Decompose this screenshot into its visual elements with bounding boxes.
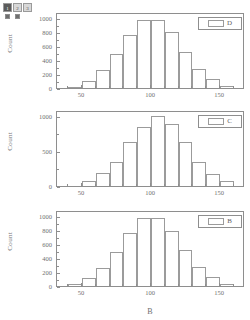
y-axis-minor-tick	[57, 169, 59, 170]
x-axis-minor-tick	[95, 184, 96, 186]
y-axis-minor-tick	[57, 134, 59, 135]
x-axis-minor-tick	[205, 184, 206, 186]
x-axis-minor-tick	[136, 184, 137, 186]
histogram-bar	[82, 278, 96, 286]
x-axis-minor-tick	[178, 284, 179, 286]
y-axis-label-d: Count	[6, 34, 14, 53]
x-axis-minor-tick	[205, 86, 206, 88]
histogram-bar	[137, 20, 151, 88]
histogram-bar	[165, 32, 179, 88]
x-axis-tick	[219, 183, 220, 186]
x-axis-tick-label: 100	[138, 91, 162, 98]
histogram-bar	[110, 54, 124, 88]
histogram-bar	[82, 81, 96, 88]
x-axis-minor-tick	[122, 284, 123, 286]
y-axis-minor-tick	[57, 280, 59, 281]
y-axis-minor-tick	[57, 238, 59, 239]
x-axis-tick-label: 150	[207, 289, 231, 296]
y-axis-tick	[57, 33, 60, 34]
histogram-bar	[151, 116, 165, 186]
y-axis-tick-label: 1000	[26, 15, 52, 22]
y-axis-tick	[57, 231, 60, 232]
x-axis-tick	[150, 85, 151, 88]
x-axis-minor-tick	[109, 184, 110, 186]
histogram-bar	[192, 162, 206, 186]
x-axis-tick-label: 50	[69, 91, 93, 98]
histogram-bar	[206, 277, 220, 286]
legend-swatch-b	[208, 218, 224, 225]
x-axis-tick	[219, 85, 220, 88]
y-axis-minor-tick	[57, 266, 59, 267]
histogram-bar	[192, 69, 206, 88]
histogram-bar	[96, 268, 110, 286]
x-axis-minor-tick	[191, 184, 192, 186]
y-axis-tick-label: 200	[26, 269, 52, 276]
x-axis-tick	[219, 283, 220, 286]
y-axis-tick-label: 500	[26, 148, 52, 155]
legend-b[interactable]: B	[198, 215, 242, 228]
y-axis-tick-label: 400	[26, 255, 52, 262]
histogram-bar	[96, 173, 110, 186]
x-axis-tick	[81, 183, 82, 186]
y-axis-tick	[57, 273, 60, 274]
histogram-bar	[137, 218, 151, 286]
histogram-bar	[137, 127, 151, 186]
x-axis-minor-tick	[164, 86, 165, 88]
y-axis-tick-label: 600	[26, 43, 52, 50]
y-axis-tick	[57, 19, 60, 20]
x-axis-minor-tick	[191, 284, 192, 286]
y-axis-tick	[57, 152, 60, 153]
x-axis-minor-tick	[67, 284, 68, 286]
histogram-bar	[123, 142, 137, 186]
histogram-bar	[165, 231, 179, 286]
y-axis-tick-label: 1000	[26, 213, 52, 220]
x-axis-minor-tick	[205, 284, 206, 286]
y-axis-tick	[57, 117, 60, 118]
y-axis-tick-label: 800	[26, 29, 52, 36]
y-axis-tick-label: 0	[26, 183, 52, 190]
y-axis-tick-label: 200	[26, 71, 52, 78]
legend-label-b: B	[227, 218, 232, 225]
x-axis-tick	[150, 283, 151, 286]
y-axis-tick	[57, 217, 60, 218]
x-axis-minor-tick	[122, 86, 123, 88]
legend-label-d: D	[227, 20, 232, 27]
x-axis-minor-tick	[233, 86, 234, 88]
x-axis-minor-tick	[178, 184, 179, 186]
x-axis-minor-tick	[67, 184, 68, 186]
x-axis-tick-label: 100	[138, 189, 162, 196]
y-axis-minor-tick	[57, 82, 59, 83]
x-axis-minor-tick	[122, 184, 123, 186]
histogram-bar	[123, 233, 137, 286]
y-axis-minor-tick	[57, 252, 59, 253]
histogram-bar	[220, 86, 234, 88]
y-axis-tick-label: 0	[26, 283, 52, 290]
y-axis-label-c: Count	[6, 132, 14, 151]
x-axis-tick-label: 150	[207, 189, 231, 196]
legend-c[interactable]: C	[198, 115, 242, 128]
y-axis-minor-tick	[57, 224, 59, 225]
x-axis-minor-tick	[233, 284, 234, 286]
y-axis-tick	[57, 245, 60, 246]
histogram-bar	[165, 124, 179, 186]
histogram-bar	[151, 20, 165, 88]
histogram-bar	[179, 52, 193, 88]
y-axis-label-b: Count	[6, 232, 14, 251]
histogram-bar	[82, 181, 96, 186]
histogram-bar	[68, 87, 82, 88]
x-axis-minor-tick	[178, 86, 179, 88]
histogram-bar	[206, 79, 220, 88]
histogram-bar	[110, 162, 124, 186]
legend-d[interactable]: D	[198, 17, 242, 30]
x-axis-tick-label: 150	[207, 91, 231, 98]
y-axis-tick-label: 800	[26, 227, 52, 234]
legend-swatch-d	[208, 20, 224, 27]
legend-label-c: C	[227, 118, 232, 125]
y-axis-tick	[57, 61, 60, 62]
x-axis-minor-tick	[67, 86, 68, 88]
y-axis-tick	[57, 187, 60, 188]
histogram-bar	[179, 250, 193, 286]
histogram-panel-d: Count D 0200400600800100050100150	[0, 8, 250, 108]
x-axis-minor-tick	[109, 284, 110, 286]
x-axis-tick-label: 50	[69, 289, 93, 296]
